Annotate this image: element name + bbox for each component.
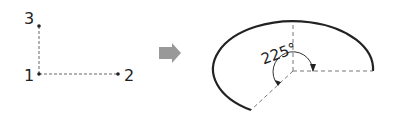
right-arrow-icon bbox=[159, 43, 181, 63]
arc-diagram: 225° bbox=[213, 21, 373, 110]
point-3-label: 3 bbox=[24, 9, 34, 28]
point-1 bbox=[37, 72, 41, 76]
dashed-end-radius bbox=[251, 71, 293, 110]
point-1-label: 1 bbox=[24, 66, 34, 85]
point-2 bbox=[116, 72, 120, 76]
point-2-label: 2 bbox=[124, 66, 134, 85]
three-point-diagram: 1 2 3 bbox=[24, 9, 134, 85]
point-3 bbox=[37, 24, 41, 28]
diagram-canvas: 1 2 3 225° bbox=[0, 0, 396, 122]
